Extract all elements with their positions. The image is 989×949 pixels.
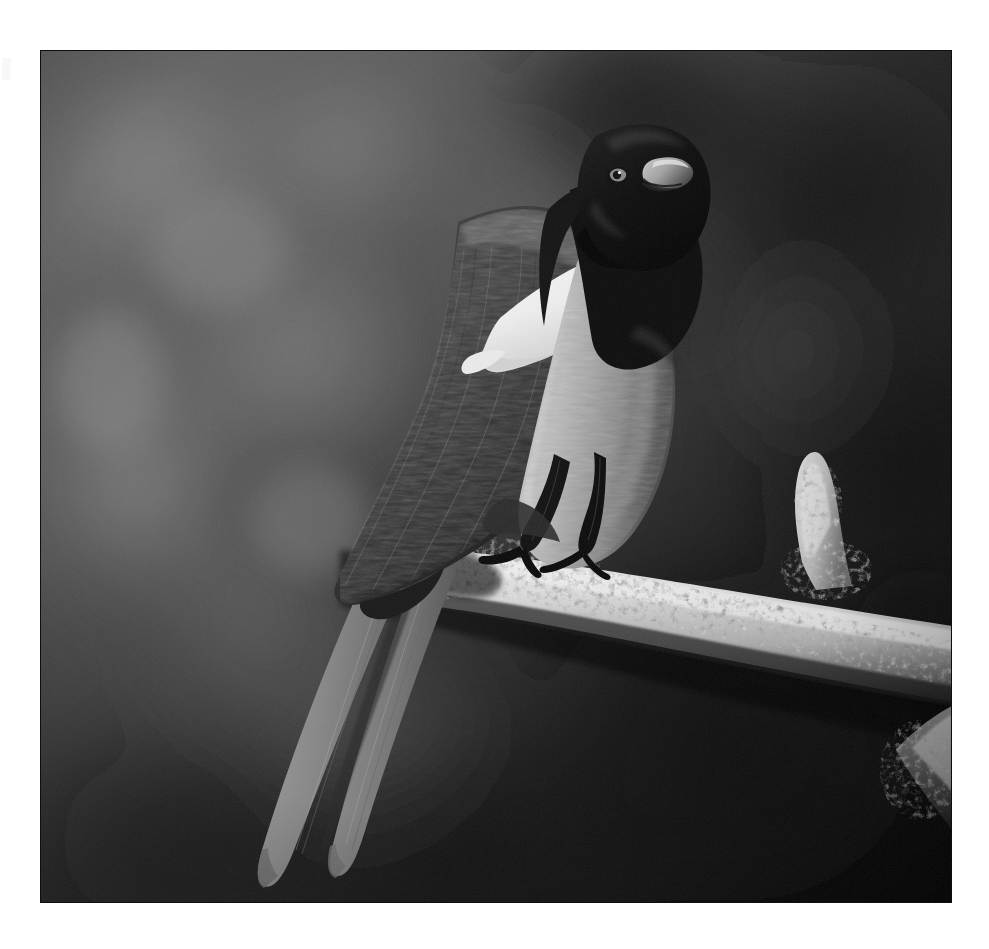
- scan-edge-artifact: [2, 58, 11, 80]
- page-root: Black-and-white photograph of a black-bi…: [0, 0, 989, 949]
- photograph: [40, 50, 952, 903]
- photo-canvas: [40, 50, 952, 903]
- film-grain: [40, 50, 952, 903]
